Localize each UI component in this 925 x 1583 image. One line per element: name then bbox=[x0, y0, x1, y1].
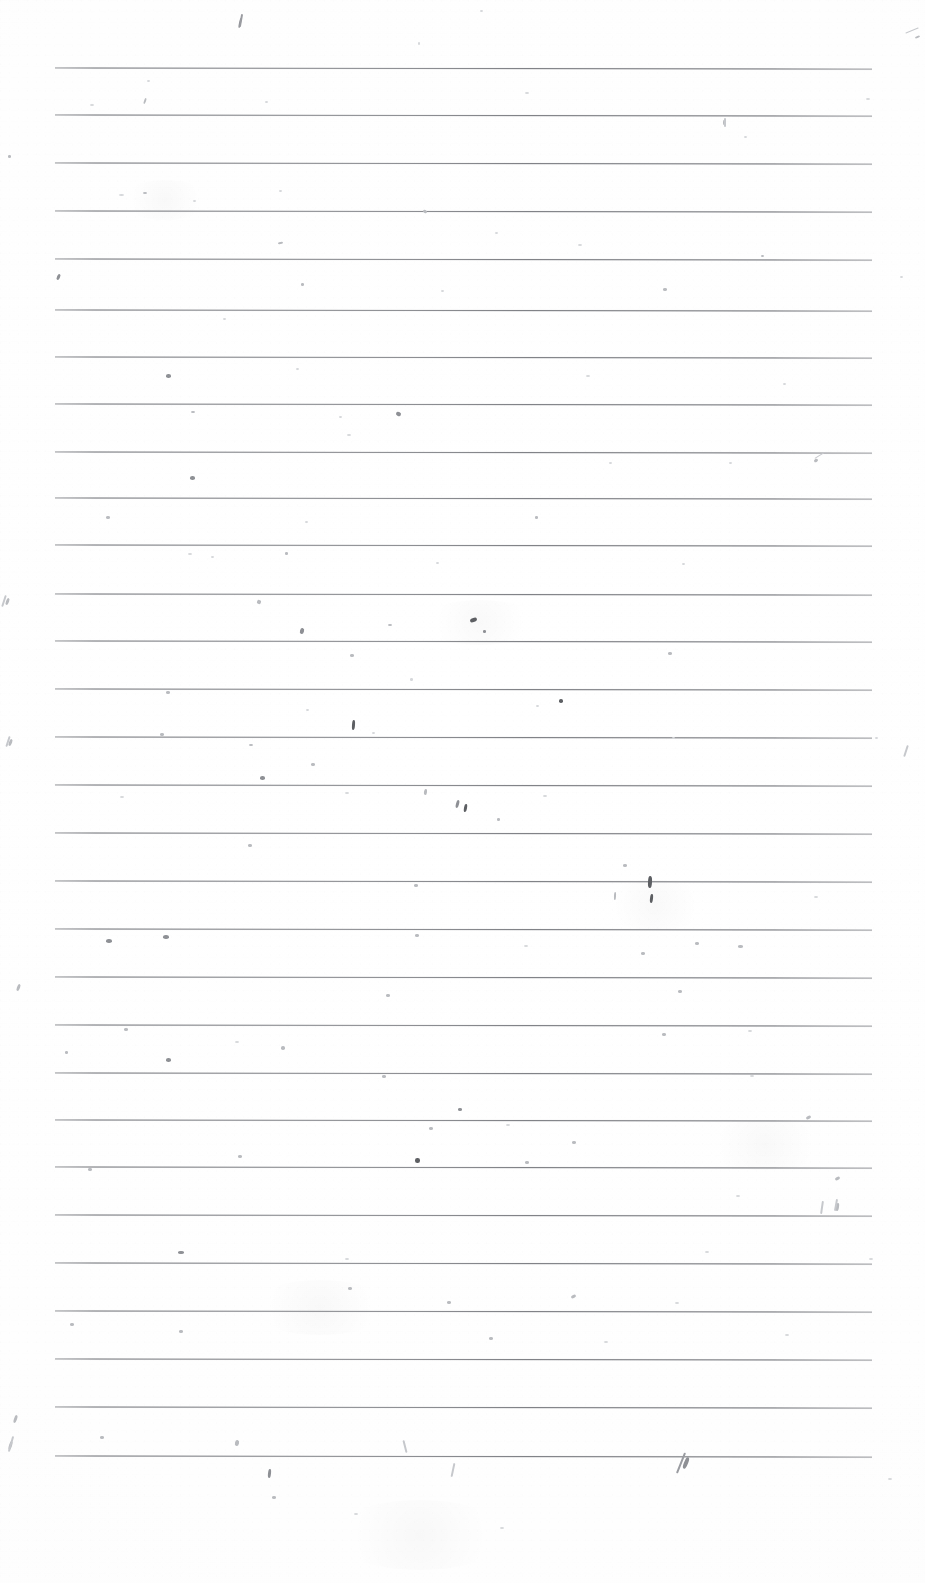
ruled-line bbox=[55, 356, 872, 359]
ruled-line bbox=[55, 832, 872, 835]
ruled-line bbox=[55, 1455, 872, 1458]
ruled-line bbox=[55, 162, 872, 165]
ruled-line bbox=[55, 451, 872, 454]
ruled-line bbox=[55, 258, 872, 261]
ruled-line bbox=[55, 976, 872, 979]
ruled-line bbox=[55, 736, 872, 739]
ruled-line bbox=[55, 309, 872, 312]
ruled-line bbox=[55, 688, 872, 691]
ruled-line bbox=[55, 593, 872, 596]
scanned-page bbox=[0, 0, 925, 1583]
ruled-line bbox=[55, 880, 872, 883]
ruled-line bbox=[55, 1358, 872, 1361]
ruled-line bbox=[55, 1262, 872, 1265]
ruled-line bbox=[55, 114, 872, 117]
ruled-line bbox=[55, 1166, 872, 1169]
ruled-line bbox=[55, 544, 872, 547]
ruled-line bbox=[55, 640, 872, 643]
ruled-line bbox=[55, 210, 872, 213]
ruled-line bbox=[55, 784, 872, 787]
ruled-line bbox=[55, 1214, 872, 1217]
ruled-line bbox=[55, 928, 872, 931]
ruled-lines-layer bbox=[0, 0, 925, 1583]
ruled-line bbox=[55, 1406, 872, 1409]
ruled-line bbox=[55, 1024, 872, 1027]
ruled-line bbox=[55, 1310, 872, 1313]
ruled-line bbox=[55, 67, 872, 70]
ruled-line bbox=[55, 1072, 872, 1075]
ruled-line bbox=[55, 497, 872, 500]
ruled-line bbox=[55, 403, 872, 406]
ruled-line bbox=[55, 1119, 872, 1122]
